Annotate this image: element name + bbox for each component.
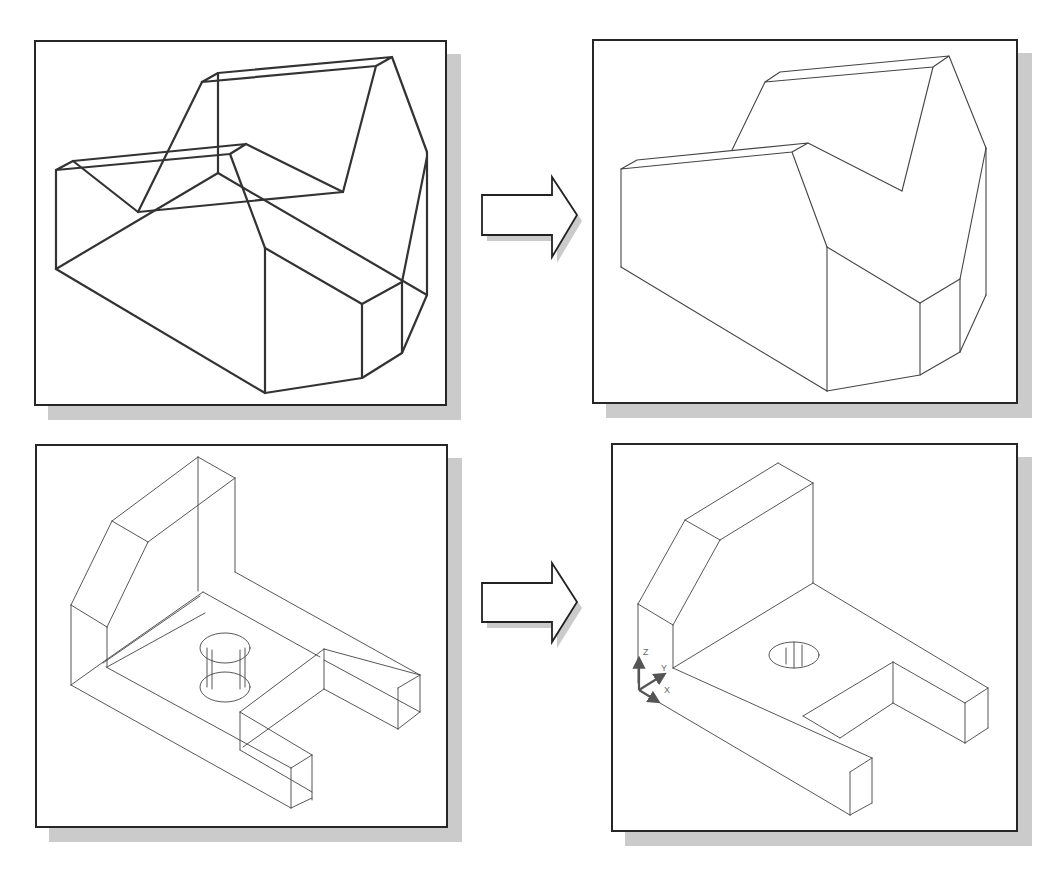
model-edge: [343, 66, 376, 192]
model-edge: [107, 542, 148, 627]
model-edge: [638, 520, 685, 604]
model-edge: [202, 57, 392, 82]
model-edge: [893, 703, 965, 743]
model-edge: [291, 755, 312, 768]
model-edge: [902, 67, 933, 191]
model-edge: [73, 161, 138, 212]
wireframe-model-1: [56, 57, 427, 393]
model-edge: [71, 605, 107, 627]
model-edge: [138, 82, 202, 212]
drawing-canvas: ZYX: [0, 0, 1064, 869]
model-edge: [808, 143, 902, 191]
model-edge: [660, 703, 850, 815]
model-edge: [198, 457, 235, 478]
wireframe-model-2: [71, 457, 420, 808]
model-edge: [71, 521, 112, 605]
model-edge: [392, 57, 427, 152]
model-edge: [765, 56, 949, 82]
model-edge: [827, 352, 960, 391]
model-edge: [621, 143, 808, 169]
model-edge: [960, 295, 986, 352]
model-edge: [218, 173, 427, 295]
model-edge: [362, 282, 402, 304]
ucs-axis-icon: ZYX: [639, 647, 670, 701]
hidden-line-model-2: [638, 463, 988, 815]
model-edge: [673, 583, 813, 668]
model-edge: [324, 649, 420, 675]
model-edge: [803, 662, 893, 716]
model-edge: [720, 483, 813, 540]
model-edge: [685, 520, 720, 540]
model-edge: [112, 457, 198, 521]
model-edge: [265, 248, 362, 304]
model-edge: [112, 521, 148, 542]
model-edge: [291, 798, 312, 808]
y-axis-label: Y: [661, 663, 667, 673]
model-edge: [778, 463, 813, 483]
model-edge: [148, 478, 235, 542]
model-edge: [638, 604, 673, 625]
model-edge: [813, 583, 988, 688]
model-edge: [850, 758, 872, 772]
model-edge: [949, 56, 986, 148]
transform-arrow-bottom-icon: [482, 563, 582, 648]
model-edge: [920, 279, 960, 303]
y-axis-arrow-icon: [639, 675, 663, 690]
model-edge: [203, 592, 320, 657]
model-edge: [240, 649, 324, 712]
z-axis-label: Z: [643, 647, 649, 657]
model-edge: [324, 689, 398, 729]
model-edge: [240, 712, 312, 755]
model-edge: [106, 667, 291, 768]
x-axis-label: X: [664, 685, 670, 695]
hole-ellipse: [200, 672, 250, 702]
model-edge: [107, 613, 205, 667]
model-edge: [402, 157, 427, 282]
model-edge: [732, 82, 765, 150]
transform-arrow-top-icon: [482, 177, 582, 263]
model-edge: [71, 685, 291, 808]
model-edge: [324, 660, 420, 712]
model-edge: [56, 269, 265, 393]
hole-ellipse: [200, 633, 250, 663]
model-edge: [840, 703, 893, 738]
model-edge: [965, 728, 988, 743]
model-edge: [398, 675, 420, 688]
model-edge: [56, 173, 218, 269]
model-edge: [965, 688, 988, 703]
model-edge: [960, 148, 986, 279]
model-edge: [621, 267, 827, 391]
model-edge: [850, 803, 872, 815]
hidden-line-model-1: [621, 56, 986, 391]
x-axis-arrow-icon: [639, 690, 657, 701]
model-edge: [673, 540, 720, 625]
model-edge: [673, 668, 872, 758]
model-edge: [246, 144, 343, 192]
model-edge: [235, 572, 420, 675]
model-edge: [685, 463, 778, 520]
model-edge: [71, 660, 106, 685]
model-edge: [398, 712, 420, 729]
model-edge: [792, 152, 827, 247]
model-edge: [827, 247, 920, 303]
model-edge: [106, 592, 203, 660]
